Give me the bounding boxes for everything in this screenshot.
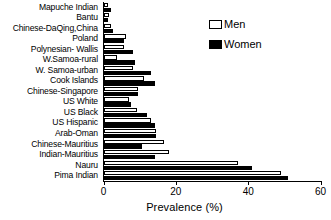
x-tick-label-20: 20 — [161, 186, 191, 197]
bar-men — [104, 161, 238, 165]
chart-row: Bantu — [0, 13, 323, 24]
chart-row: Mapuche Indian — [0, 2, 323, 13]
legend-swatch-women-icon — [209, 40, 222, 49]
legend-label-men: Men — [224, 19, 245, 30]
bar-men — [104, 45, 124, 49]
category-label: US Black — [0, 108, 98, 117]
category-label: Chinese-Singapore — [0, 87, 98, 96]
chart-row: US Hispanic — [0, 118, 323, 129]
bar-women — [104, 176, 288, 180]
bar-women — [104, 50, 133, 54]
bar-women — [104, 102, 131, 106]
category-label: Poland — [0, 34, 98, 43]
bar-women — [104, 60, 135, 64]
category-label: Nauru — [0, 161, 98, 170]
legend-item-men: Men — [209, 19, 262, 30]
bar-men — [104, 108, 137, 112]
category-label: Cook Islands — [0, 76, 98, 85]
chart-row: Polynesian- Wallis — [0, 44, 323, 55]
chart-row: US Black — [0, 107, 323, 118]
x-tick-60 — [321, 181, 322, 185]
bar-men — [104, 150, 169, 154]
bar-women — [104, 155, 155, 159]
category-label: W.Samoa-rural — [0, 55, 98, 64]
chart-row: Nauru — [0, 160, 323, 171]
x-tick-0 — [104, 181, 105, 185]
category-label: Pima Indian — [0, 171, 98, 180]
bar-women — [104, 92, 138, 96]
bar-women — [104, 113, 147, 117]
chart-row: Cook Islands — [0, 76, 323, 87]
chart-row: Chinese-DaQing,China — [0, 23, 323, 34]
chart-row: W.Samoa-rural — [0, 55, 323, 66]
legend-item-women: Women — [209, 39, 262, 50]
bar-women — [104, 134, 156, 138]
category-label: US White — [0, 97, 98, 106]
bar-men — [104, 87, 138, 91]
legend-label-women: Women — [224, 39, 262, 50]
bar-women — [104, 39, 124, 43]
bar-men — [104, 171, 281, 175]
x-tick-label-60: 60 — [306, 186, 331, 197]
chart-row: W. Samoa-urban — [0, 65, 323, 76]
x-tick-20 — [176, 181, 177, 185]
chart-row: Arab-Oman — [0, 128, 323, 139]
bar-women — [104, 166, 252, 170]
category-label: Chinese-Mauritius — [0, 140, 98, 149]
category-label: Polynesian- Wallis — [0, 45, 98, 54]
bar-men — [104, 97, 129, 101]
chart-row: Chinese-Mauritius — [0, 139, 323, 150]
x-axis-title: Prevalence (%) — [0, 201, 323, 213]
category-label: W. Samoa-urban — [0, 66, 98, 75]
chart-row: Chinese-Singapore — [0, 86, 323, 97]
bar-women — [104, 123, 155, 127]
category-label: Bantu — [0, 13, 98, 22]
bar-men — [104, 76, 144, 80]
category-label: Chinese-DaQing,China — [0, 24, 98, 33]
legend-swatch-men-icon — [209, 20, 222, 29]
bar-men — [104, 118, 151, 122]
bar-women — [104, 18, 108, 22]
legend: Men Women — [209, 19, 262, 59]
bar-men — [104, 129, 156, 133]
bar-women — [104, 81, 155, 85]
x-axis-line — [103, 181, 321, 182]
bar-women — [104, 8, 111, 12]
bar-men — [104, 34, 126, 38]
category-label: Arab-Oman — [0, 129, 98, 138]
chart-row: Poland — [0, 34, 323, 45]
bar-men — [104, 13, 109, 17]
bar-men — [104, 3, 108, 7]
bar-men — [104, 24, 111, 28]
bar-men — [104, 140, 164, 144]
x-tick-label-40: 40 — [233, 186, 263, 197]
category-label: US Hispanic — [0, 118, 98, 127]
x-tick-label-0: 0 — [89, 186, 119, 197]
bar-men — [104, 66, 133, 70]
bar-men — [104, 55, 117, 59]
category-label: Indian-Mauritius — [0, 150, 98, 159]
category-label: Mapuche Indian — [0, 3, 98, 12]
bar-women — [104, 29, 113, 33]
chart-row: Indian-Mauritius — [0, 149, 323, 160]
chart-row: US White — [0, 97, 323, 108]
chart-row: Pima Indian — [0, 170, 323, 181]
x-axis-title-text: Prevalence (%) — [146, 201, 223, 213]
bar-women — [104, 144, 142, 148]
bar-women — [104, 71, 151, 75]
x-tick-40 — [248, 181, 249, 185]
